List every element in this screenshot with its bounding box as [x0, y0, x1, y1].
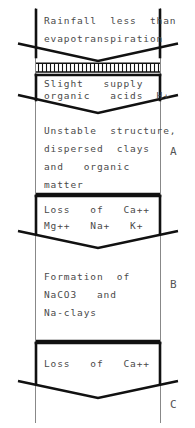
block-loss-ca-line-1: Loss of Ca++ — [44, 357, 150, 370]
chevron-loss-cations — [18, 231, 178, 248]
block-unstable-line-2: dispersed clays — [44, 142, 150, 155]
block-unstable-line-3: and organic — [44, 160, 130, 173]
block-unstable-line-1: Unstable structure, — [44, 124, 176, 137]
hatched-band — [36, 63, 160, 73]
horizon-label-c: C — [170, 398, 177, 411]
chevron-loss-ca-path — [18, 381, 178, 398]
block-unstable-line-4: matter — [44, 178, 84, 191]
block-formation-line-3: Na-clays — [44, 306, 97, 319]
block-formation-line-1: Formation of — [44, 270, 130, 283]
chevron-loss-cations-path — [18, 231, 178, 248]
chevron-rainfall-path — [18, 44, 178, 62]
block-loss-cations-line-2: Mg++ Na+ K+ — [44, 219, 143, 232]
block-formation-line-2: NaCO3 and — [44, 288, 117, 301]
soil-profile-diagram: Rainfall less than evapotranspiration Sl… — [0, 0, 195, 428]
horizon-label-b: B — [170, 278, 177, 291]
block-loss-cations-line-1: Loss of Ca++ — [44, 203, 150, 216]
block-rainfall-line-2: evapotranspiration — [44, 32, 163, 45]
chevron-loss-ca — [18, 381, 178, 398]
block-slight-supply-line-2: organic acids H+ — [44, 89, 170, 102]
chevron-rainfall — [18, 44, 178, 62]
horizon-label-a: A — [170, 145, 177, 158]
block-rainfall-line-1: Rainfall less than — [44, 14, 176, 27]
